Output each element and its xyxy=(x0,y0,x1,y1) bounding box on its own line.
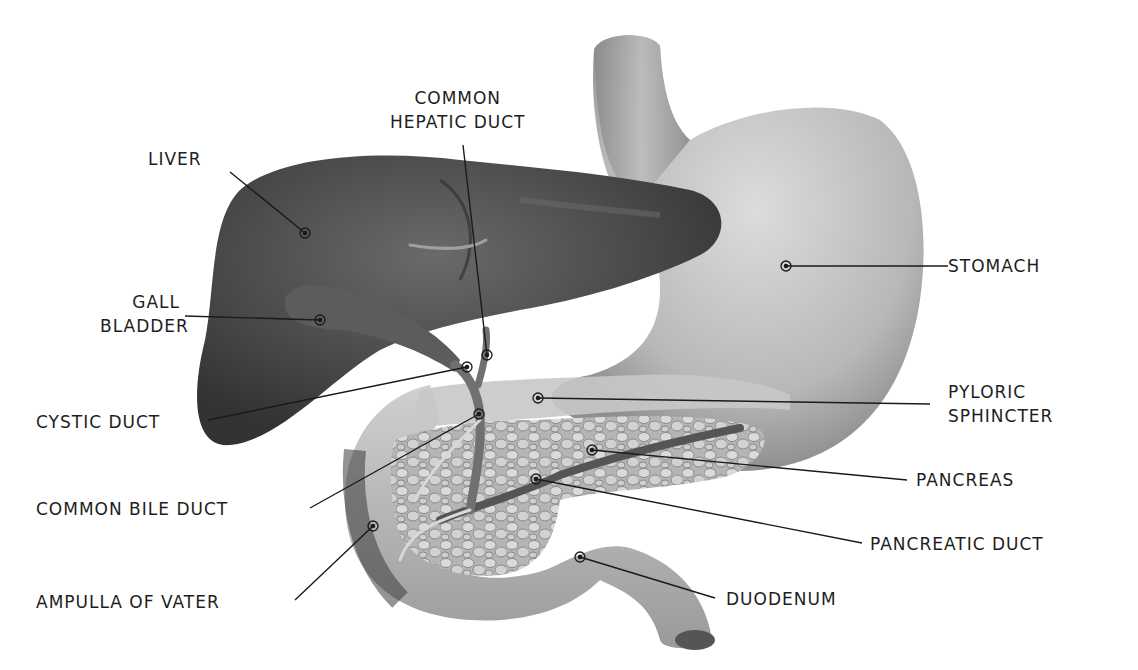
label-common-hepatic-duct: COMMON HEPATIC DUCT xyxy=(390,86,525,134)
leader-pancreatic-duct xyxy=(536,479,862,543)
label-common-bile-duct: COMMON BILE DUCT xyxy=(36,497,228,521)
label-gall-bladder-line2: BLADDER xyxy=(100,314,180,338)
label-pancreatic-duct: PANCREATIC DUCT xyxy=(870,532,1044,556)
label-cystic-duct: CYSTIC DUCT xyxy=(36,410,160,434)
label-ampulla-of-vater: AMPULLA OF VATER xyxy=(36,590,220,614)
label-liver: LIVER xyxy=(148,147,202,171)
label-gall-bladder: GALL BLADDER xyxy=(100,290,180,338)
label-pyloric-sphincter-line2: SPHINCTER xyxy=(948,404,1053,428)
label-stomach: STOMACH xyxy=(948,254,1040,278)
label-common-hepatic-duct-line1: COMMON xyxy=(390,86,525,110)
label-pyloric-sphincter: PYLORIC SPHINCTER xyxy=(948,380,1053,428)
pancreas-shape xyxy=(391,416,765,576)
label-gall-bladder-line1: GALL xyxy=(100,290,180,314)
label-pyloric-sphincter-line1: PYLORIC xyxy=(948,380,1053,404)
label-common-hepatic-duct-line2: HEPATIC DUCT xyxy=(390,110,525,134)
label-duodenum: DUODENUM xyxy=(726,587,837,611)
label-pancreas: PANCREAS xyxy=(916,468,1014,492)
